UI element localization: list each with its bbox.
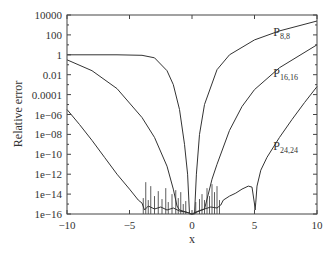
x-tick-label: −10 (58, 219, 76, 231)
y-tick-label: 1 (57, 49, 63, 61)
y-tick-label: 1e−10 (34, 148, 62, 160)
chart: 1000010010.010.00011e−061e−081e−101e−121… (0, 0, 336, 253)
y-tick-label: 1e−08 (34, 128, 62, 140)
y-axis-label: Relative error (11, 81, 25, 147)
x-axis-ticks: −10−50510 (58, 15, 323, 231)
x-tick-label: 0 (189, 219, 195, 231)
x-tick-label: −5 (124, 219, 136, 231)
x-tick-label: 10 (312, 219, 324, 231)
x-axis-label: x (189, 232, 195, 246)
series-label-24-24: P24,24 (273, 139, 298, 155)
y-tick-label: 0.0001 (32, 89, 62, 101)
series-labels: P8,8P16,16P24,24 (273, 25, 298, 155)
series-lines (67, 21, 317, 214)
y-tick-label: 1e−06 (34, 109, 62, 121)
y-tick-label: 1e−14 (34, 188, 62, 200)
series-label-16-16: P16,16 (273, 66, 298, 82)
y-axis-ticks: 1000010010.010.00011e−061e−081e−101e−121… (32, 9, 317, 220)
series-label-8-8: P8,8 (273, 25, 290, 41)
y-tick-label: 10000 (35, 9, 63, 21)
y-tick-label: 0.01 (43, 69, 62, 81)
y-tick-label: 1e−12 (34, 168, 62, 180)
plot-frame (67, 15, 317, 214)
y-tick-label: 100 (46, 29, 63, 41)
x-tick-label: 5 (252, 219, 258, 231)
series-line-8-8 (67, 21, 317, 214)
